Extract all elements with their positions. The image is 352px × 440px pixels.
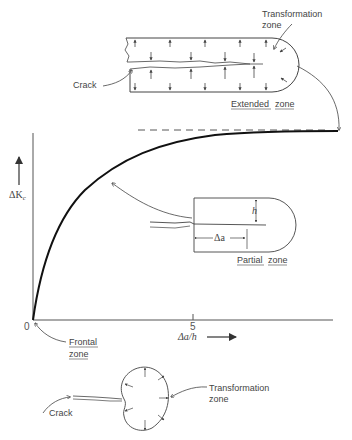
h-label: h xyxy=(252,205,257,216)
diagram-canvas: Transformation zone Crack Extended zone … xyxy=(0,0,352,440)
frontal-label-1: Frontal xyxy=(69,337,97,347)
bottom-crack xyxy=(73,396,122,399)
top-crack-leader xyxy=(103,70,132,86)
frontal-zone-inset: Crack Transformation zone xyxy=(43,367,269,430)
x-axis-label: Δa/h xyxy=(177,331,197,342)
x-tick-label-0: 0 xyxy=(24,321,30,332)
bottom-transformation-label: Transformation xyxy=(209,383,269,393)
y-axis-label: ΔKc xyxy=(9,189,27,202)
break-line xyxy=(125,38,130,62)
partial-zone-inset: h Δa Partial zone xyxy=(112,183,296,265)
crack-lower-face xyxy=(130,64,250,69)
bottom-transformation-leader xyxy=(171,387,207,397)
extended-transformation-label: Transformation xyxy=(262,9,322,19)
dilation-arrows-top xyxy=(135,40,287,90)
extended-zone-label-2: zone xyxy=(262,20,282,30)
partial-crack xyxy=(150,222,266,225)
frontal-label-2: zone xyxy=(69,349,89,359)
extended-caption-word2: zone xyxy=(275,99,295,109)
partial-caption-word1: Partial xyxy=(237,255,263,265)
r-curve-chart: ΔKc 0 5 Δa/h xyxy=(9,130,338,342)
extended-caption-word1: Extended xyxy=(231,99,269,109)
extended-connector xyxy=(297,66,339,130)
extended-zone-outline xyxy=(126,38,299,92)
top-crack-label: Crack xyxy=(73,80,97,90)
partial-caption-word2: zone xyxy=(268,255,288,265)
da-label: Δa xyxy=(214,232,225,243)
bottom-crack-label: Crack xyxy=(49,408,73,418)
crack-upper-face xyxy=(130,61,263,64)
extended-zone-inset: Transformation zone Crack Extended zone xyxy=(73,9,339,130)
bottom-zone-label-2: zone xyxy=(209,394,229,404)
partial-connector xyxy=(112,183,192,218)
frontal-zone-annotation: Frontal zone xyxy=(35,323,98,359)
r-curve xyxy=(33,131,338,320)
frontal-leader xyxy=(35,323,66,342)
